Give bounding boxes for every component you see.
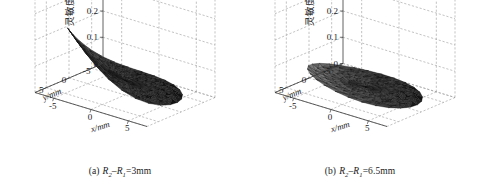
caption-a-value: =3mm xyxy=(126,166,151,176)
z-axis-title: 灵敏度 xyxy=(304,0,315,26)
ztick-label: 0 xyxy=(334,59,339,69)
ztick-label: 0.2 xyxy=(87,6,98,16)
caption-b-label: (b) xyxy=(325,166,336,176)
ztick-label: 0.1 xyxy=(87,32,98,42)
ztick-label: 0 xyxy=(94,59,99,69)
ytick-label: 0 xyxy=(302,75,307,85)
xtick-label: 5 xyxy=(125,123,130,133)
ztick-label: 0.2 xyxy=(327,6,338,16)
xtick-label: -5 xyxy=(289,101,297,111)
xtick-label: 0 xyxy=(328,112,333,122)
ytick-label: 0 xyxy=(62,75,67,85)
surface-plot-b: 00.10.20.30.450-5-505y/mmx/mm灵敏度 xyxy=(240,0,480,166)
xtick-label: 5 xyxy=(365,123,370,133)
panel-b: 00.10.20.30.450-5-505y/mmx/mm灵敏度 (b)R2–R… xyxy=(240,0,480,193)
caption-b-value: =6.5mm xyxy=(363,166,396,176)
ytick-label: -5 xyxy=(323,66,331,76)
caption-a: (a)R2–R1=3mm xyxy=(0,166,240,178)
figure-container: 00.10.20.30.450-5-505y/mmx/mm灵敏度 (a)R2–R… xyxy=(0,0,480,193)
z-axis-title: 灵敏度 xyxy=(64,0,75,26)
xtick-label: -5 xyxy=(49,101,57,111)
caption-b: (b)R2–R1=6.5mm xyxy=(240,166,480,178)
ytick-label: -5 xyxy=(83,66,91,76)
surface-plot-a: 00.10.20.30.450-5-505y/mmx/mm灵敏度 xyxy=(0,0,240,166)
xtick-label: 0 xyxy=(88,112,93,122)
ztick-label: 0.1 xyxy=(327,32,338,42)
panel-a: 00.10.20.30.450-5-505y/mmx/mm灵敏度 (a)R2–R… xyxy=(0,0,240,193)
caption-a-label: (a) xyxy=(89,166,100,176)
